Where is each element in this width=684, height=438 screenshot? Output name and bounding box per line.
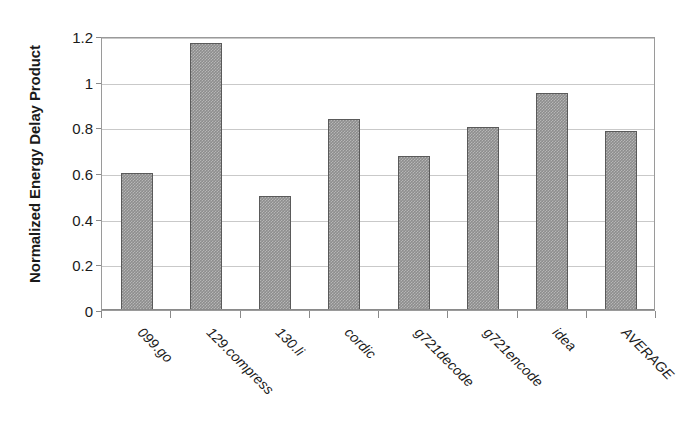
gridline: [102, 175, 654, 176]
gridline: [102, 84, 654, 85]
x-axis-baseline: [102, 309, 654, 310]
bar: [328, 119, 360, 310]
x-axis-tick-mark: [240, 311, 241, 318]
x-axis-tick-mark: [170, 311, 171, 318]
y-axis-tick-label: 0: [0, 303, 93, 320]
x-axis-tick-mark: [517, 311, 518, 318]
plot-area: [101, 37, 655, 311]
bar: [467, 127, 499, 310]
gridline: [102, 266, 654, 267]
x-axis-tick-mark: [309, 311, 310, 318]
bar: [536, 93, 568, 310]
gridline: [102, 221, 654, 222]
bar: [398, 156, 430, 310]
y-axis-tick-label: 1: [0, 74, 93, 91]
x-axis-tick-mark: [655, 311, 656, 318]
x-axis-tick-mark: [447, 311, 448, 318]
gridline: [102, 129, 654, 130]
gridline: [102, 38, 654, 39]
y-axis-tick-label: 0.4: [0, 211, 93, 228]
y-axis-tick-label: 0.6: [0, 166, 93, 183]
x-axis-tick-mark: [378, 311, 379, 318]
bar: [190, 43, 222, 310]
bar: [605, 131, 637, 310]
y-axis-tick-label: 0.2: [0, 257, 93, 274]
y-axis-tick-label: 0.8: [0, 120, 93, 137]
bar: [121, 173, 153, 310]
chart-figure: Normalized Energy Delay Product 00.20.40…: [0, 0, 684, 438]
x-axis-tick-mark: [101, 311, 102, 318]
x-axis-tick-mark: [586, 311, 587, 318]
y-axis-tick-label: 1.2: [0, 29, 93, 46]
bar: [259, 196, 291, 310]
